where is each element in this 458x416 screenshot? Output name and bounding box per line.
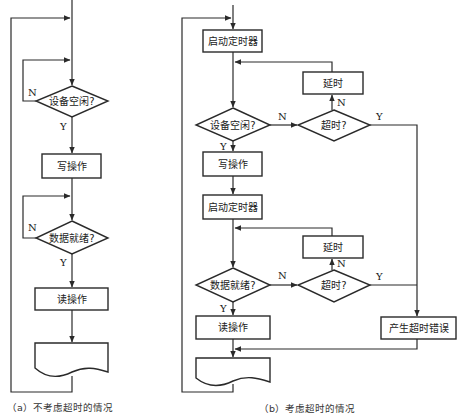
label-y: Y	[219, 303, 227, 314]
label-n: N	[28, 87, 37, 98]
delay-label-1: 延时	[323, 78, 343, 89]
decision-device-idle-label: 设备空闲?	[49, 95, 94, 107]
label-n: N	[28, 222, 37, 233]
panel-b: 启动定时器 延时 设备空闲? N 超时? N Y Y 写操作 启动定时器 延时	[182, 5, 456, 414]
delay-label-2: 延时	[323, 242, 343, 253]
timeout-error-label: 产生超时错误	[389, 322, 449, 334]
label-n: N	[278, 270, 287, 281]
outer-loop-connector	[11, 18, 72, 392]
caption-b: （b）考虑超时的情况	[259, 403, 355, 414]
decision-timeout-label-1: 超时?	[321, 119, 346, 131]
label-y: Y	[375, 271, 383, 282]
start-timer-label-2: 启动定时器	[208, 201, 258, 213]
delay-return-connector	[235, 228, 332, 236]
write-op-label: 写操作	[57, 160, 87, 172]
label-n: N	[337, 258, 346, 269]
label-y: Y	[375, 111, 383, 122]
decision-data-ready-label: 数据就绪?	[210, 279, 255, 291]
label-n: N	[278, 111, 287, 122]
document-shape	[35, 343, 108, 376]
timeout-yes-connector	[370, 125, 417, 316]
label-n: N	[337, 97, 346, 108]
caption-a: （a）不考虑超时的情况	[7, 402, 113, 413]
error-merge-connector	[235, 339, 417, 349]
read-op-label: 读操作	[57, 293, 87, 305]
decision-device-idle-label: 设备空闲?	[210, 119, 255, 131]
label-y: Y	[59, 121, 67, 132]
label-y: Y	[219, 141, 227, 152]
write-op-label: 写操作	[218, 158, 248, 170]
read-op-label: 读操作	[218, 321, 248, 333]
document-shape	[196, 358, 270, 385]
label-y: Y	[59, 257, 67, 268]
delay-return-connector	[235, 62, 332, 72]
panel-a: 设备空闲? N Y 写操作 数据就绪? N Y 读操作 （a）不考虑超时的情况	[7, 0, 113, 413]
decision-data-ready-label: 数据就绪?	[49, 232, 94, 244]
flowchart-canvas: 设备空闲? N Y 写操作 数据就绪? N Y 读操作 （a）不考虑超时的情况 …	[0, 0, 458, 416]
decision-timeout-label-2: 超时?	[321, 279, 346, 291]
start-timer-label-1: 启动定时器	[208, 35, 258, 47]
